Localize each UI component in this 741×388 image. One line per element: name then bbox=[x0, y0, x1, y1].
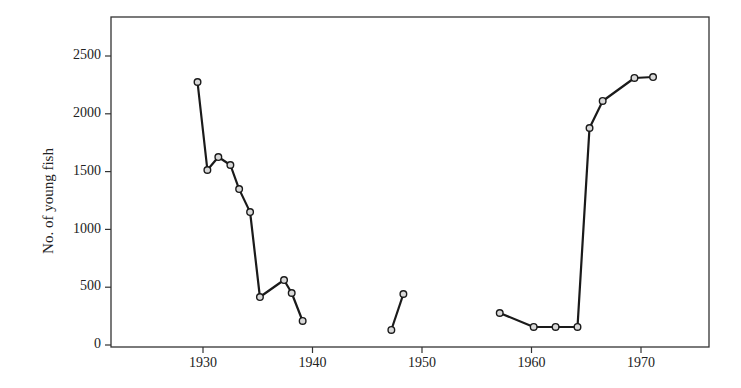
x-tick-label: 1940 bbox=[299, 355, 327, 370]
x-tick-label: 1960 bbox=[518, 355, 546, 370]
x-tick-label: 1970 bbox=[627, 355, 655, 370]
data-point-marker bbox=[204, 167, 211, 174]
series-line bbox=[198, 82, 303, 321]
data-point-marker bbox=[530, 324, 537, 331]
y-tick-label: 0 bbox=[94, 336, 101, 351]
data-point-marker bbox=[574, 324, 581, 331]
data-point-marker bbox=[236, 186, 243, 193]
y-axis: 05001000150020002500 bbox=[73, 47, 111, 351]
data-point-marker bbox=[227, 162, 234, 169]
data-point-marker bbox=[552, 324, 559, 331]
data-point-marker bbox=[400, 291, 407, 298]
y-tick-label: 1000 bbox=[73, 221, 101, 236]
data-point-marker bbox=[257, 294, 264, 301]
x-axis: 19301940195019601970 bbox=[189, 347, 655, 370]
data-point-marker bbox=[247, 209, 254, 216]
y-axis-label: No. of young fish bbox=[40, 148, 56, 254]
x-tick-label: 1950 bbox=[408, 355, 436, 370]
y-tick-label: 2000 bbox=[73, 105, 101, 120]
data-point-marker bbox=[496, 310, 503, 317]
data-point-marker bbox=[388, 327, 395, 334]
y-tick-label: 1500 bbox=[73, 163, 101, 178]
data-point-marker bbox=[299, 318, 306, 325]
data-point-marker bbox=[650, 74, 657, 81]
data-point-marker bbox=[215, 154, 222, 161]
data-point-marker bbox=[281, 277, 288, 284]
data-point-marker bbox=[599, 98, 606, 105]
series-line bbox=[391, 294, 403, 330]
data-point-marker bbox=[631, 75, 638, 82]
y-tick-label: 500 bbox=[80, 278, 101, 293]
y-tick-label: 2500 bbox=[73, 47, 101, 62]
data-point-marker bbox=[194, 79, 201, 86]
data-point-marker bbox=[288, 290, 295, 297]
plot-frame bbox=[111, 17, 709, 347]
plot-border bbox=[111, 17, 709, 347]
line-chart: 05001000150020002500 1930194019501960197… bbox=[0, 0, 741, 388]
data-series bbox=[194, 74, 656, 334]
series-line bbox=[500, 77, 653, 327]
x-tick-label: 1930 bbox=[189, 355, 217, 370]
data-point-marker bbox=[586, 125, 593, 132]
